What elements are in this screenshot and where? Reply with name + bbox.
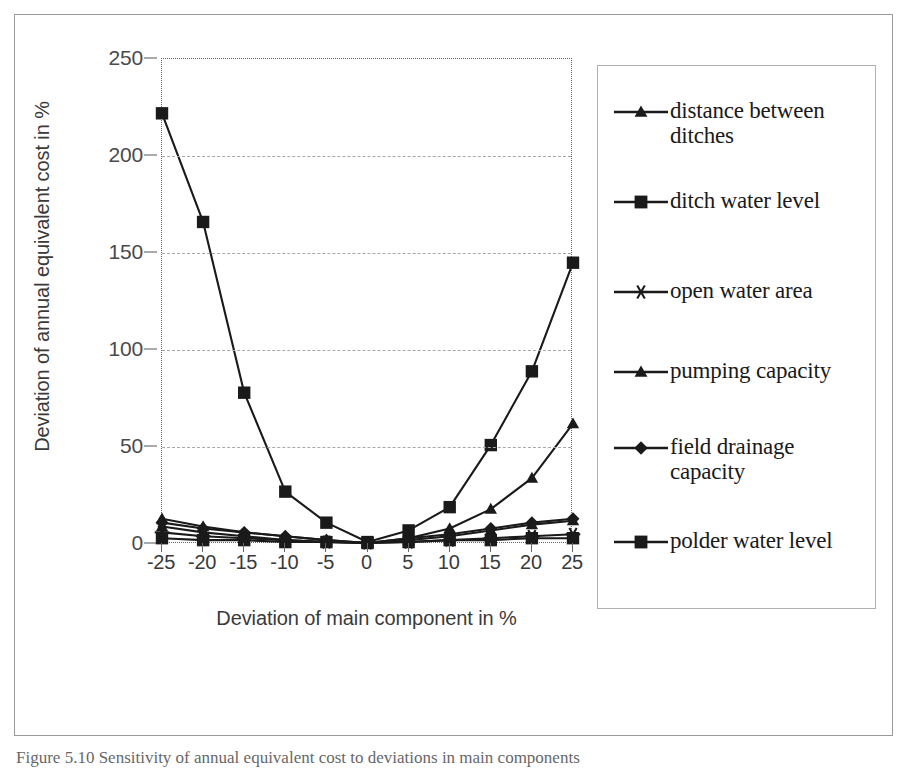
series-ditch-water-level [156,107,579,548]
y-tick-label: 200 [109,143,143,167]
legend-label: pumping capacity [670,358,831,383]
triangle-marker-icon [612,360,670,384]
x-tick-label: 10 [438,551,460,574]
gridline [162,350,571,351]
x-tick-label: 25 [561,551,583,574]
x-tick-mark [449,543,450,552]
figure-frame: Deviation of annual equivalent cost in %… [14,14,893,736]
x-tick-label: -20 [188,551,216,574]
legend-label: field drainage capacity [670,434,868,484]
x-tick-label: -5 [317,551,334,574]
x-tick-label: 20 [520,551,542,574]
x-tick-mark [202,543,203,552]
x-tick-mark [367,543,368,552]
y-tick-mark [144,349,157,350]
x-tick-mark [408,543,409,552]
chart-area: Deviation of annual equivalent cost in %… [15,15,894,737]
y-axis-ticks: 050100150200250 [15,15,161,543]
x-tick-label: 15 [479,551,501,574]
y-tick-mark [144,543,157,544]
legend-label: ditch water level [670,188,820,213]
y-tick-mark [144,155,157,156]
y-tick-label: 100 [109,337,143,361]
legend-item-distance-between-ditches: distance between ditches [612,98,868,148]
gridline [162,156,571,157]
x-axis-title: Deviation of main component in % [161,607,572,630]
legend-item-ditch-water-level: ditch water level [612,188,868,214]
y-tick-label: 50 [120,434,143,458]
square-marker-icon [612,190,670,214]
x-tick-label: -25 [147,551,175,574]
x-tick-label: -10 [270,551,298,574]
legend-label: distance between ditches [670,98,868,148]
asterisk-marker-icon [612,280,670,304]
y-tick-mark [144,252,157,253]
legend-label: open water area [670,278,813,303]
plot-area [161,58,572,543]
triangle-marker-icon [612,100,670,124]
y-tick-label: 150 [109,240,143,264]
legend-item-pumping-capacity: pumping capacity [612,358,868,384]
gridline [162,253,571,254]
x-tick-mark [572,543,573,552]
plot-series-svg [162,59,573,544]
y-tick-label: 250 [109,46,143,70]
legend: distance between ditchesditch water leve… [597,65,876,609]
x-tick-mark [325,543,326,552]
gridline [162,447,571,448]
x-tick-label: -15 [229,551,257,574]
x-tick-mark [161,543,162,552]
x-tick-label: 5 [402,551,413,574]
x-tick-mark [490,543,491,552]
legend-label: polder water level [670,528,832,553]
y-tick-label: 0 [132,531,143,555]
y-tick-mark [144,446,157,447]
diamond-marker-icon [612,436,670,460]
legend-item-polder-water-level: polder water level [612,528,868,554]
y-tick-mark [144,58,157,59]
square-marker-icon [612,530,670,554]
x-tick-mark [243,543,244,552]
legend-item-field-drainage-capacity: field drainage capacity [612,434,868,484]
x-tick-mark [284,543,285,552]
figure-caption: Figure 5.10 Sensitivity of annual equiva… [16,748,896,768]
x-axis-ticks: -25-20-15-10-50510152025 [161,551,572,585]
legend-item-open-water-area: open water area [612,278,868,304]
x-tick-label: 0 [361,551,372,574]
x-tick-mark [531,543,532,552]
